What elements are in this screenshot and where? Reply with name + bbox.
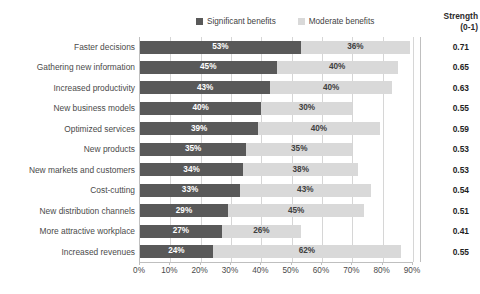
strength-value: 0.55 <box>421 248 469 256</box>
bar-value-label: 43% <box>297 186 313 194</box>
category-label: Gathering new information <box>3 63 135 71</box>
stacked-bar[interactable]: 43%40% <box>140 81 392 94</box>
category-label: Increased productivity <box>3 84 135 92</box>
bar-segment-significant[interactable]: 40% <box>140 102 261 115</box>
bar-segment-significant[interactable]: 29% <box>140 204 228 217</box>
strength-value-column: 0.710.650.630.550.590.530.530.540.510.41… <box>420 37 480 262</box>
x-axis-tick-label: 30% <box>215 267 245 275</box>
bar-segment-moderate[interactable]: 36% <box>301 41 410 54</box>
x-axis-tickmark <box>291 262 292 265</box>
strength-column-header: Strength (0-1) <box>424 11 478 34</box>
category-axis-labels: Faster decisionsGathering new informatio… <box>0 37 135 262</box>
bar-value-label: 35% <box>185 145 201 153</box>
strength-header-line1: Strength <box>424 11 478 22</box>
x-axis-tickmark <box>200 262 201 265</box>
bar-row: 53%36% <box>140 37 412 57</box>
bar-value-label: 30% <box>299 104 315 112</box>
strength-value: 0.55 <box>421 104 469 112</box>
x-axis-tickmark <box>321 262 322 265</box>
stacked-bar[interactable]: 24%62% <box>140 245 401 258</box>
bar-row: 35%35% <box>140 139 412 159</box>
bar-row: 27%26% <box>140 221 412 241</box>
bar-value-label: 34% <box>183 166 199 174</box>
x-axis-tickmark <box>169 262 170 265</box>
x-axis-tick-labels: 0%10%20%30%40%50%60%70%80%90% <box>139 267 412 281</box>
category-label: Faster decisions <box>3 43 135 51</box>
bar-segment-moderate[interactable]: 45% <box>228 204 365 217</box>
bar-segment-moderate[interactable]: 62% <box>213 245 401 258</box>
bar-row: 29%45% <box>140 201 412 221</box>
bar-row: 24%62% <box>140 242 412 262</box>
stacked-bar-chart: Significant benefits Moderate benefits S… <box>0 0 480 294</box>
stacked-bar[interactable]: 45%40% <box>140 61 398 74</box>
bar-value-label: 45% <box>288 207 304 215</box>
bar-segment-moderate[interactable]: 43% <box>240 184 370 197</box>
x-axis-tick-label: 0% <box>124 267 154 275</box>
stacked-bar[interactable]: 39%40% <box>140 122 380 135</box>
bar-segment-moderate[interactable]: 30% <box>261 102 352 115</box>
square-swatch-icon <box>298 18 305 25</box>
x-axis-tick-label: 90% <box>397 267 427 275</box>
bar-value-label: 62% <box>299 247 315 255</box>
bar-segment-significant[interactable]: 35% <box>140 143 246 156</box>
bar-segment-significant[interactable]: 24% <box>140 245 213 258</box>
bar-segment-significant[interactable]: 53% <box>140 41 301 54</box>
bar-segment-moderate[interactable]: 35% <box>246 143 352 156</box>
bar-value-label: 40% <box>311 125 327 133</box>
bar-row: 39%40% <box>140 119 412 139</box>
strength-value: 0.53 <box>421 166 469 174</box>
x-axis-tickmark <box>230 262 231 265</box>
stacked-bar[interactable]: 34%38% <box>140 163 358 176</box>
bar-value-label: 36% <box>347 43 363 51</box>
bar-segment-moderate[interactable]: 40% <box>270 81 391 94</box>
category-label: New products <box>3 145 135 153</box>
bar-segment-moderate[interactable]: 40% <box>258 122 379 135</box>
bar-value-label: 38% <box>293 166 309 174</box>
stacked-bar[interactable]: 27%26% <box>140 225 301 238</box>
category-label: New business models <box>3 104 135 112</box>
bar-value-label: 27% <box>173 227 189 235</box>
bar-segment-significant[interactable]: 34% <box>140 163 243 176</box>
strength-value: 0.65 <box>421 63 469 71</box>
bar-segment-significant[interactable]: 45% <box>140 61 277 74</box>
bar-value-label: 40% <box>323 84 339 92</box>
strength-value: 0.53 <box>421 145 469 153</box>
x-axis-tickmark <box>412 262 413 265</box>
stacked-bar[interactable]: 29%45% <box>140 204 364 217</box>
plot-area: 53%36%45%40%43%40%40%30%39%40%35%35%34%3… <box>139 37 412 262</box>
legend-entry-significant: Significant benefits <box>196 18 276 26</box>
category-label: New distribution channels <box>3 207 135 215</box>
legend-label-moderate: Moderate benefits <box>309 18 375 26</box>
stacked-bar[interactable]: 33%43% <box>140 184 371 197</box>
category-label: More attractive workplace <box>3 227 135 235</box>
bar-value-label: 39% <box>191 125 207 133</box>
bar-segment-significant[interactable]: 43% <box>140 81 270 94</box>
x-axis-tickmark <box>351 262 352 265</box>
x-axis-tick-label: 70% <box>336 267 366 275</box>
category-label: Increased revenues <box>3 248 135 256</box>
stacked-bar[interactable]: 40%30% <box>140 102 352 115</box>
x-axis-tick-label: 60% <box>306 267 336 275</box>
bar-row: 33%43% <box>140 180 412 200</box>
strength-header-line2: (0-1) <box>424 22 478 33</box>
bar-segment-moderate[interactable]: 38% <box>243 163 358 176</box>
strength-value: 0.71 <box>421 43 469 51</box>
strength-value: 0.59 <box>421 125 469 133</box>
bar-segment-moderate[interactable]: 40% <box>277 61 398 74</box>
bar-value-label: 40% <box>329 63 345 71</box>
x-axis-line <box>139 262 412 263</box>
legend-entry-moderate: Moderate benefits <box>298 18 375 26</box>
stacked-bar[interactable]: 35%35% <box>140 143 352 156</box>
bar-value-label: 53% <box>212 43 228 51</box>
bar-value-label: 45% <box>200 63 216 71</box>
bar-segment-significant[interactable]: 33% <box>140 184 240 197</box>
bar-segment-significant[interactable]: 27% <box>140 225 222 238</box>
category-label: New markets and customers <box>3 166 135 174</box>
strength-value: 0.54 <box>421 186 469 194</box>
strength-value: 0.63 <box>421 84 469 92</box>
bar-value-label: 24% <box>168 247 184 255</box>
strength-value: 0.51 <box>421 207 469 215</box>
bar-segment-moderate[interactable]: 26% <box>222 225 301 238</box>
bar-segment-significant[interactable]: 39% <box>140 122 258 135</box>
stacked-bar[interactable]: 53%36% <box>140 41 410 54</box>
